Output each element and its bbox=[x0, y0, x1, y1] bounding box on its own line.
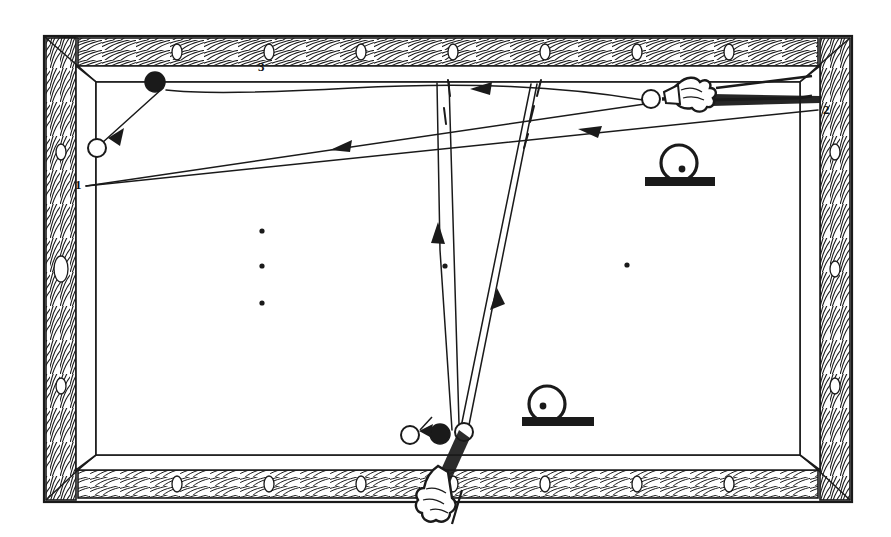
object-ball-bottom bbox=[430, 424, 450, 444]
table-spot bbox=[442, 263, 447, 268]
rail-top bbox=[44, 36, 818, 66]
target-ball-top-left bbox=[88, 139, 106, 157]
cushion-label-1: 1 bbox=[75, 178, 82, 191]
cushion-label-3: 3 bbox=[258, 60, 265, 73]
target-ball-bottom-left bbox=[401, 426, 419, 444]
english-bar-upper bbox=[645, 177, 715, 186]
english-dot-lower bbox=[540, 403, 547, 410]
table-spot bbox=[624, 262, 629, 267]
cushion-label-2: 2 bbox=[823, 103, 830, 116]
english-bar-lower bbox=[522, 417, 594, 426]
table-spot bbox=[259, 228, 264, 233]
diagram-canvas bbox=[0, 0, 891, 537]
english-ball-upper bbox=[661, 145, 697, 181]
table-spot bbox=[259, 300, 264, 305]
english-dot-upper bbox=[679, 166, 686, 173]
billiards-diagram: 1 2 3 bbox=[0, 0, 891, 537]
playing-surface bbox=[96, 82, 800, 455]
object-ball-top-left bbox=[145, 72, 165, 92]
table-spot bbox=[259, 263, 264, 268]
cue-ball-upper-right bbox=[642, 90, 660, 108]
english-ball-lower bbox=[529, 386, 565, 422]
